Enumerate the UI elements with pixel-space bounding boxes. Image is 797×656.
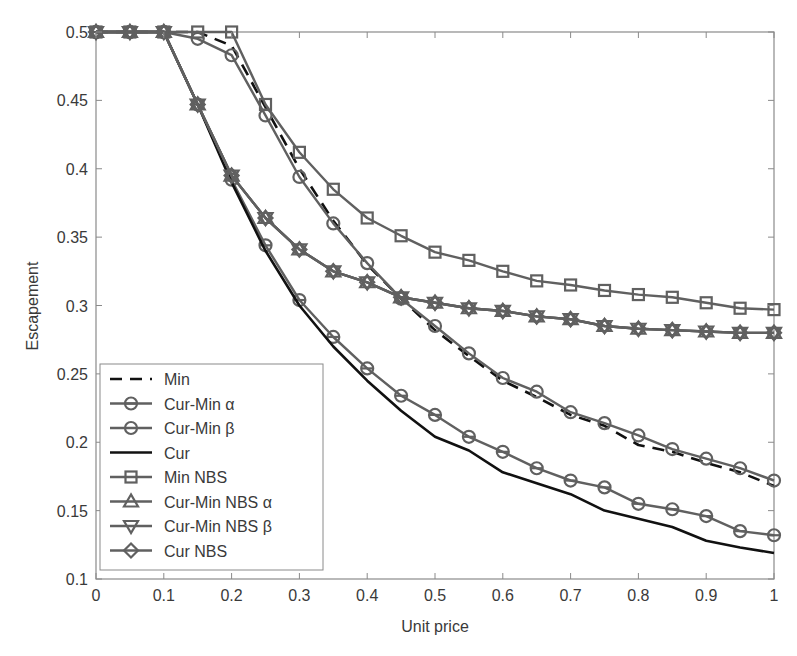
legend-item: Cur-Min α [110,396,235,413]
x-tick-label: 0.5 [424,587,446,604]
y-tick-label: 0.1 [66,571,88,588]
x-tick-label: 0 [92,587,101,604]
legend-label: Cur [164,445,190,462]
legend-label: Min NBS [164,469,227,486]
line-chart: 00.10.20.30.40.50.60.70.80.910.10.150.20… [0,0,797,656]
x-tick-label: 0.7 [559,587,581,604]
x-tick-label: 0.8 [627,587,649,604]
x-tick-label: 0.4 [356,587,378,604]
legend-item: Min NBS [110,469,227,486]
legend-label: Cur-Min β [164,420,235,437]
x-tick-label: 0.1 [153,587,175,604]
x-tick-label: 0.9 [695,587,717,604]
x-tick-label: 0.3 [288,587,310,604]
legend-label: Cur-Min NBS α [164,494,272,511]
x-tick-label: 1 [770,587,779,604]
legend-label: Cur NBS [164,543,227,560]
y-tick-label: 0.3 [66,298,88,315]
x-axis-label: Unit price [401,618,469,635]
y-tick-label: 0.2 [66,434,88,451]
y-tick-label: 0.45 [57,92,88,109]
legend-label: Min [164,371,190,388]
y-tick-label: 0.25 [57,366,88,383]
y-tick-label: 0.4 [66,161,88,178]
legend-label: Cur-Min NBS β [164,518,272,535]
legend: MinCur-Min αCur-Min βCurMin NBSCur-Min N… [100,364,323,570]
legend-item: Cur-Min β [110,420,235,437]
legend-label: Cur-Min α [164,396,235,413]
y-tick-label: 0.5 [66,24,88,41]
y-tick-label: 0.15 [57,503,88,520]
y-tick-label: 0.35 [57,229,88,246]
x-tick-label: 0.2 [220,587,242,604]
x-tick-label: 0.6 [492,587,514,604]
y-axis-label: Escapement [24,261,41,350]
